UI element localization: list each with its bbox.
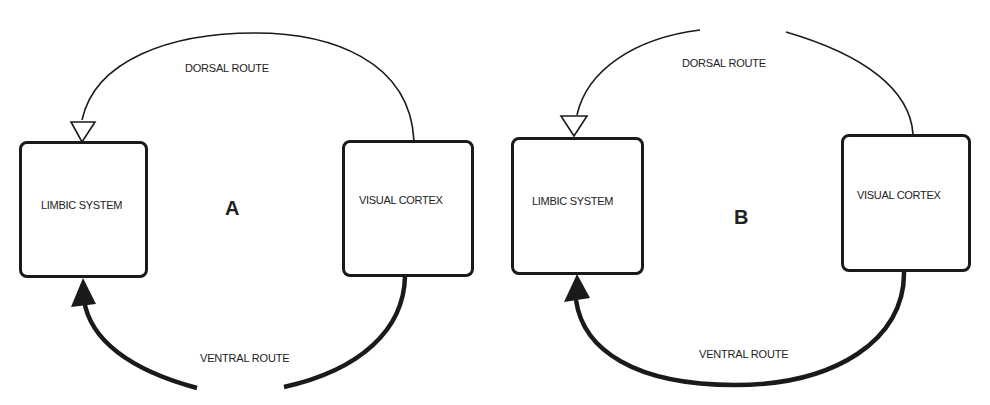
panel-b: LIMBIC SYSTEM VISUAL CORTEX DORSAL ROUTE… [495,0,990,405]
dorsal-arrowhead-open-icon [71,122,95,142]
ventral-route-arc-right [284,276,405,387]
dorsal-route-arc [82,33,414,141]
dorsal-route-arc-right [786,32,913,134]
ventral-arrowhead-filled-icon [71,278,96,307]
limbic-system-box: LIMBIC SYSTEM [511,137,644,275]
limbic-system-label: LIMBIC SYSTEM [532,195,613,207]
panel-letter: B [734,206,748,229]
visual-cortex-box: VISUAL CORTEX [841,134,971,272]
panel-a: LIMBIC SYSTEM VISUAL CORTEX DORSAL ROUTE… [0,0,495,405]
visual-cortex-box: VISUAL CORTEX [342,140,474,277]
dorsal-route-arc-left [577,30,700,115]
ventral-arrowhead-filled-icon [564,274,590,302]
limbic-system-box: LIMBIC SYSTEM [19,141,148,278]
ventral-route-arc-left [84,300,197,388]
ventral-route-label: VENTRAL ROUTE [699,348,788,360]
panel-letter: A [225,197,239,220]
ventral-route-arc [576,272,904,385]
dorsal-route-label: DORSAL ROUTE [682,57,766,69]
ventral-route-label: VENTRAL ROUTE [200,352,289,364]
limbic-system-label: LIMBIC SYSTEM [41,199,122,211]
dorsal-route-label: DORSAL ROUTE [185,62,269,74]
dorsal-arrowhead-open-icon [561,116,587,136]
visual-cortex-label: VISUAL CORTEX [857,189,941,201]
visual-cortex-label: VISUAL CORTEX [359,194,443,206]
